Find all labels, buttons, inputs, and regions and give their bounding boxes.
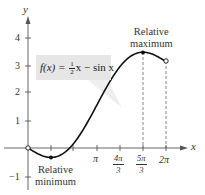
- x-axis-label: x: [191, 141, 196, 152]
- function-label: f(x) = 12x − sin x: [40, 61, 114, 76]
- open-endpoint-start: [26, 146, 30, 150]
- x-tick-pi: π: [93, 154, 98, 164]
- y-tick-3: 3: [15, 61, 20, 71]
- x-tick-2pi: 2π: [159, 155, 169, 165]
- y-axis-label: y: [23, 4, 28, 15]
- function-rhs: x − sin x: [76, 61, 114, 73]
- x-tick-4pi-3: 4π3: [113, 154, 124, 174]
- y-tick-4: 4: [15, 33, 20, 43]
- callout-pointer: [88, 80, 122, 108]
- function-lhs: f(x) =: [40, 61, 68, 73]
- y-tick-neg1: −1: [9, 172, 20, 182]
- y-tick-2: 2: [15, 87, 20, 97]
- y-axis-arrow-icon: [26, 16, 31, 24]
- function-fraction: 12: [69, 61, 75, 76]
- chart-canvas: [0, 0, 205, 195]
- x-tick-5pi-3: 5π3: [136, 154, 147, 174]
- open-endpoint-end: [164, 59, 168, 63]
- y-tick-1: 1: [15, 116, 20, 126]
- x-axis-arrow-icon: [180, 146, 188, 151]
- relative-minimum-label: Relative minimum: [35, 164, 76, 187]
- relative-minimum-point: [49, 156, 53, 160]
- relative-maximum-point: [141, 51, 145, 55]
- relative-maximum-label: Relative maximum: [130, 26, 173, 49]
